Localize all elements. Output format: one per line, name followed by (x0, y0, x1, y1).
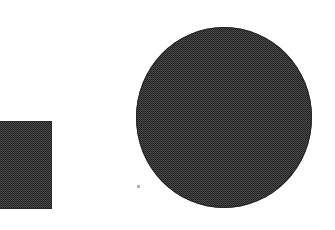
image-canvas: Square Circle (0, 0, 335, 230)
circle-outline (136, 27, 312, 208)
circle-shape: Circle (136, 27, 312, 208)
square-outline (0, 121, 52, 209)
circle-label: Circle (136, 27, 137, 28)
square-label: Square (0, 121, 1, 122)
scan-speck (137, 185, 140, 188)
square-shape: Square (0, 121, 52, 209)
